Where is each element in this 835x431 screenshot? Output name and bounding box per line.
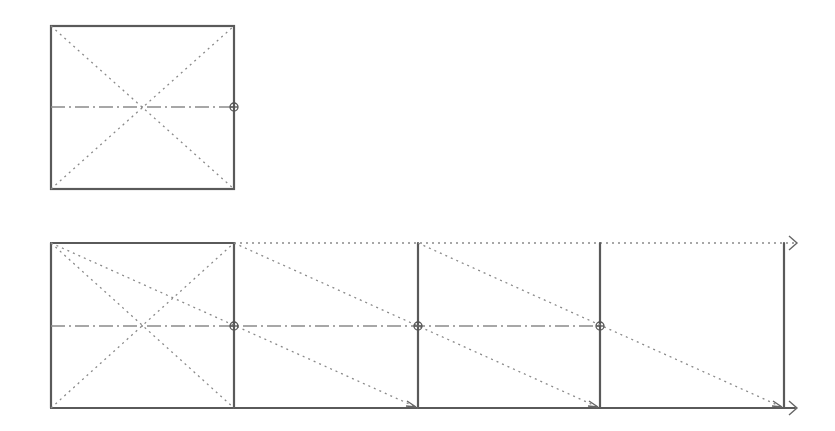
diagonal-arrowhead-2 [588, 401, 598, 407]
diagonal-arrowhead-3 [772, 401, 782, 407]
top-figure [51, 26, 238, 189]
construction-diagram [0, 0, 835, 431]
diagonal-arrowhead-1 [406, 401, 416, 407]
bottom-figure [51, 236, 797, 415]
